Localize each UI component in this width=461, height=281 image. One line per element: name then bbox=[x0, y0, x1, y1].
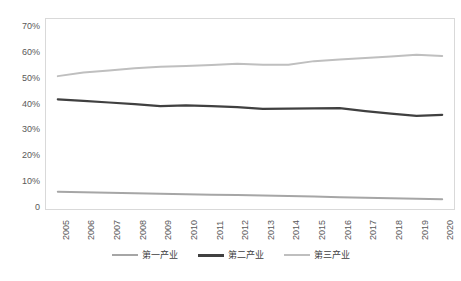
series-line-2 bbox=[58, 99, 442, 116]
y-axis-tick-40: 40% bbox=[22, 100, 40, 109]
x-axis-tick-2017: 2017 bbox=[369, 220, 378, 240]
y-axis-tick-30: 30% bbox=[22, 125, 40, 134]
legend-swatch-icon-3 bbox=[284, 254, 310, 257]
legend-item-3[interactable]: 第三产业 bbox=[284, 251, 350, 260]
x-axis-tick-2015: 2015 bbox=[318, 220, 327, 240]
x-axis-tick-2012: 2012 bbox=[241, 220, 250, 240]
x-axis-tick-2007: 2007 bbox=[113, 220, 122, 240]
legend-item-1[interactable]: 第一产业 bbox=[112, 251, 178, 260]
y-axis: 010%20%30%40%50%60%70% bbox=[0, 0, 45, 281]
legend-label-3: 第三产业 bbox=[314, 251, 350, 260]
x-axis-tick-2006: 2006 bbox=[87, 220, 96, 240]
y-axis-tick-70: 70% bbox=[22, 22, 40, 31]
chart-legend: 第一产业第二产业第三产业 bbox=[0, 246, 461, 264]
x-axis-tick-2019: 2019 bbox=[421, 220, 430, 240]
series-line-3 bbox=[58, 55, 442, 76]
x-axis-tick-2020: 2020 bbox=[446, 220, 455, 240]
x-axis-tick-2013: 2013 bbox=[267, 220, 276, 240]
x-axis-tick-2016: 2016 bbox=[344, 220, 353, 240]
x-axis-tick-2009: 2009 bbox=[164, 220, 173, 240]
y-axis-tick-20: 20% bbox=[22, 151, 40, 160]
y-axis-tick-50: 50% bbox=[22, 74, 40, 83]
legend-item-2[interactable]: 第二产业 bbox=[198, 251, 264, 260]
x-axis-tick-2005: 2005 bbox=[62, 220, 71, 240]
legend-swatch-icon-1 bbox=[112, 254, 138, 257]
x-axis-tick-2010: 2010 bbox=[190, 220, 199, 240]
series-layer bbox=[45, 18, 455, 210]
legend-swatch-icon-2 bbox=[198, 254, 224, 257]
y-axis-tick-10: 10% bbox=[22, 177, 40, 186]
x-axis-tick-2008: 2008 bbox=[139, 220, 148, 240]
x-axis-tick-2011: 2011 bbox=[216, 221, 225, 240]
series-line-1 bbox=[58, 192, 442, 200]
legend-label-2: 第二产业 bbox=[228, 251, 264, 260]
legend-label-1: 第一产业 bbox=[142, 251, 178, 260]
x-axis-tick-2014: 2014 bbox=[292, 220, 301, 240]
x-axis-tick-2018: 2018 bbox=[395, 220, 404, 240]
line-chart: 010%20%30%40%50%60%70% 20052006200720082… bbox=[0, 0, 461, 281]
y-axis-tick-60: 60% bbox=[22, 48, 40, 57]
y-axis-tick-0: 0 bbox=[35, 203, 40, 212]
